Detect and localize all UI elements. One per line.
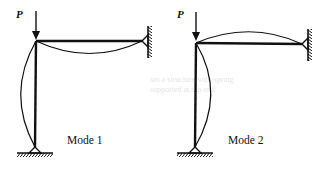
beam-member bbox=[196, 43, 302, 44]
load-label-p: P bbox=[177, 8, 184, 20]
load-arrow-icon bbox=[32, 11, 40, 40]
column-member bbox=[195, 43, 196, 147]
caption-mode-2: Mode 2 bbox=[228, 134, 264, 146]
load-arrow-icon bbox=[192, 12, 200, 41]
frame-mode-1: P Mode 1 bbox=[16, 8, 152, 157]
buckling-modes-diagram: sas a structure with spring supported at… bbox=[0, 0, 331, 169]
bleed-through-text: supported at top end bbox=[150, 85, 215, 94]
caption-mode-1: Mode 1 bbox=[67, 134, 103, 146]
bleed-through-text: sas a structure with spring bbox=[150, 75, 234, 84]
buckled-column-shape bbox=[195, 43, 211, 147]
pin-support-right-icon bbox=[302, 29, 312, 61]
pin-support-bottom-icon bbox=[177, 147, 213, 157]
pin-support-right-icon bbox=[142, 26, 152, 58]
pin-support-bottom-icon bbox=[17, 147, 53, 157]
buckled-column-shape bbox=[21, 41, 36, 147]
column-member bbox=[35, 41, 36, 147]
load-label-p: P bbox=[16, 8, 23, 20]
buckled-beam-shape bbox=[36, 41, 142, 54]
